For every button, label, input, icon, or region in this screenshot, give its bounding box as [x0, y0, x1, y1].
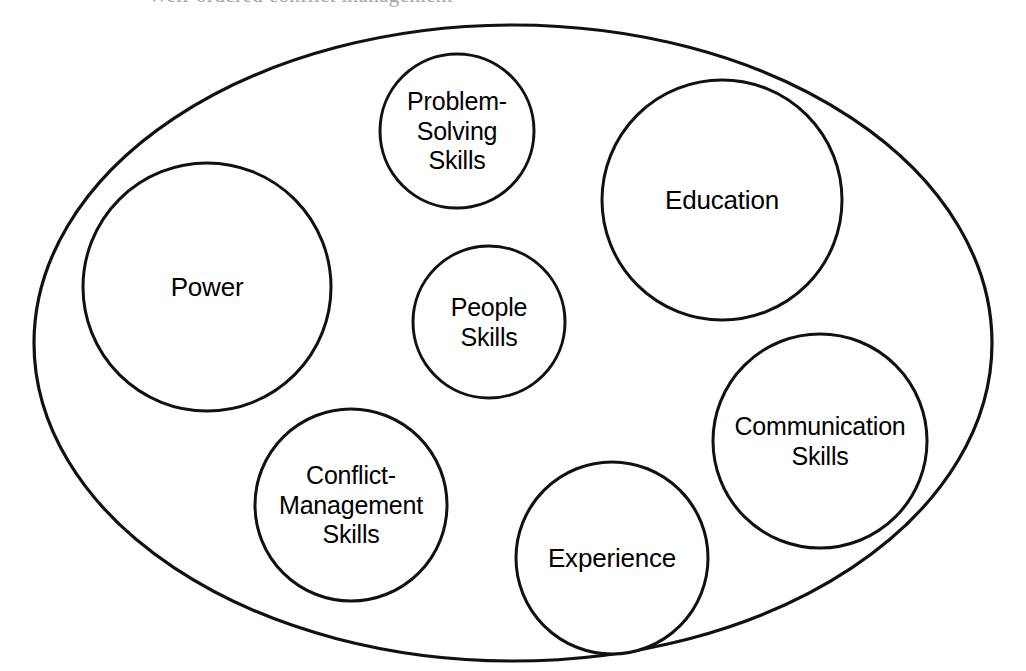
node-circle-conflict-management-skills[interactable] — [255, 409, 447, 601]
diagram-page: Well-ordered conflict management PowerPr… — [0, 0, 1026, 671]
node-circle-problem-solving-skills[interactable] — [380, 54, 534, 208]
node-circle-communication-skills[interactable] — [713, 334, 927, 548]
node-circle-people-skills[interactable] — [413, 246, 565, 398]
diagram-canvas — [0, 0, 1026, 671]
node-circle-experience[interactable] — [516, 462, 708, 654]
node-circle-power[interactable] — [83, 163, 331, 411]
node-circle-education[interactable] — [602, 80, 842, 320]
